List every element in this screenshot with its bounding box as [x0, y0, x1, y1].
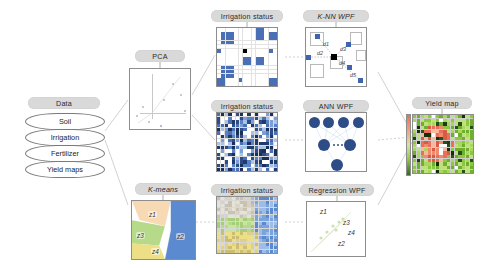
node-label-ann-wpf: ANN WPF — [303, 100, 369, 112]
data-stack-item-irrigation[interactable]: Irrigation — [25, 129, 105, 146]
pca-point — [180, 94, 182, 96]
data-stack-item-soil[interactable]: Soil — [25, 113, 105, 130]
irrigation-status-map-top[interactable] — [216, 27, 278, 87]
node-label-knn-wpf: K-NN WPF — [303, 10, 369, 22]
kmeans-zone-label-z4: z4 — [151, 248, 160, 255]
ann-hidden-node — [318, 139, 330, 151]
ann-input-node — [323, 117, 334, 128]
node-label-pca: PCA — [135, 50, 185, 62]
kmeans-zone-label-z3: z3 — [136, 232, 145, 239]
data-stack-item-yield-maps[interactable]: Yield maps — [25, 161, 105, 178]
ann-wpf-network[interactable] — [305, 112, 367, 172]
knn-wpf-plot[interactable]: d1 d2 d3 d4 d5 — [305, 27, 367, 87]
regression-zone-label-z4: z4 — [347, 229, 356, 236]
ann-output-node — [331, 159, 343, 171]
knn-distance-label-d1: d1 — [323, 41, 329, 47]
diagram-canvas: Data Soil Irrigation Fertilizer Yield ma… — [0, 0, 492, 268]
pca-point — [172, 83, 174, 85]
grid-cell — [274, 168, 277, 171]
pca-point — [142, 106, 144, 108]
pca-point — [136, 115, 138, 117]
grid-cell — [274, 250, 277, 253]
yield-map[interactable] — [412, 114, 474, 174]
knn-distance-label-d4: d4 — [339, 60, 345, 66]
knn-distance-label-d3: d3 — [340, 46, 346, 52]
ann-input-node — [309, 117, 320, 128]
kmeans-zone-label-z2: z2 — [176, 233, 185, 240]
ann-input-node — [353, 117, 364, 128]
yield-map-colorbar — [406, 114, 411, 176]
regression-zone-label-z1: z1 — [319, 208, 328, 215]
data-stack-item-fertilizer[interactable]: Fertilizer — [25, 145, 105, 162]
node-label-yield-map: Yield map — [412, 97, 472, 109]
kmeans-zone-map[interactable]: z1 z2 z3 z4 — [131, 200, 196, 260]
kmeans-zone-label-z1: z1 — [148, 211, 157, 218]
knn-distance-label-d2: d2 — [317, 50, 323, 56]
regression-zone-label-z3: z3 — [342, 219, 351, 226]
node-label-kmeans: K-means — [135, 183, 191, 195]
pca-plot[interactable] — [129, 68, 191, 130]
regression-zone-label-z2: z2 — [337, 240, 346, 247]
node-label-regression-wpf: Regression WPF — [300, 184, 374, 196]
ann-hidden-node — [344, 139, 356, 151]
knn-query-point — [331, 54, 337, 60]
regression-wpf-plot[interactable]: z1 z3 z4 z2 — [306, 201, 366, 257]
irrigation-status-map-mid[interactable] — [216, 112, 278, 172]
knn-distance-label-d5: d5 — [350, 72, 356, 78]
node-label-irrigation-top: Irrigation status — [211, 10, 283, 22]
pca-point — [148, 121, 150, 123]
node-label-irrigation-mid: Irrigation status — [211, 100, 283, 112]
irrigation-status-map-bottom[interactable] — [216, 196, 278, 254]
node-label-data: Data — [28, 97, 100, 109]
grid-cell — [273, 82, 277, 86]
data-stack: Soil Irrigation Fertilizer Yield maps — [25, 113, 105, 179]
pca-point — [163, 99, 165, 101]
grid-cell — [470, 170, 473, 173]
node-label-irrigation-bottom: Irrigation status — [211, 184, 283, 196]
ann-input-node — [338, 117, 349, 128]
pca-point — [184, 110, 186, 112]
